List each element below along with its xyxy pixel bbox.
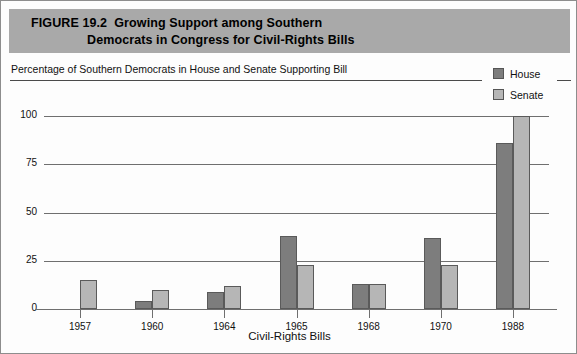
legend-label-house: House	[510, 68, 540, 80]
x-tick-1960	[152, 309, 153, 318]
bar-group-1960	[135, 116, 169, 309]
chart-legend: House Senate	[493, 65, 543, 107]
legend-swatch-senate	[493, 89, 504, 100]
bar-senate-1960	[152, 290, 169, 309]
x-tick-1965	[297, 309, 298, 318]
bar-senate-1970	[441, 265, 458, 309]
bar-groups	[44, 116, 549, 309]
legend-item-senate: Senate	[493, 86, 543, 103]
bar-group-1957	[63, 116, 97, 309]
bar-senate-1964	[224, 286, 241, 309]
x-tick-1970	[441, 309, 442, 318]
y-tick-label-75: 75	[26, 157, 37, 168]
x-tick-1968	[369, 309, 370, 318]
figure-header-band: FIGURE 19.2 Growing Support among Southe…	[9, 9, 570, 53]
figure-title: FIGURE 19.2 Growing Support among Southe…	[31, 15, 551, 48]
bar-house-1960	[135, 301, 152, 309]
legend-swatch-house	[493, 68, 504, 79]
x-tick-1957	[80, 309, 81, 318]
bar-group-1964	[207, 116, 241, 309]
bar-senate-1968	[369, 284, 386, 309]
figure-container: FIGURE 19.2 Growing Support among Southe…	[0, 0, 577, 354]
bar-senate-1965	[297, 265, 314, 309]
subtitle-rule-right	[557, 80, 571, 81]
figure-title-line1: Growing Support among Southern	[114, 16, 322, 30]
legend-label-senate: Senate	[510, 89, 543, 101]
bar-house-1965	[280, 236, 297, 309]
y-tick-label-0: 0	[31, 302, 37, 313]
bar-group-1968	[352, 116, 386, 309]
figure-number: FIGURE 19.2	[31, 16, 107, 30]
subtitle-rule-left	[10, 80, 482, 81]
x-axis-label: Civil-Rights Bills	[1, 330, 577, 342]
y-tick-label-100: 100	[20, 109, 37, 120]
x-tick-1964	[224, 309, 225, 318]
bar-house-1964	[207, 292, 224, 309]
bar-senate-1988	[513, 116, 530, 309]
bar-group-1965	[280, 116, 314, 309]
y-tick-label-25: 25	[26, 254, 37, 265]
bar-senate-1957	[80, 280, 97, 309]
bar-group-1970	[424, 116, 458, 309]
bar-house-1968	[352, 284, 369, 309]
bar-house-1988	[496, 143, 513, 309]
y-tick-label-50: 50	[26, 206, 37, 217]
legend-item-house: House	[493, 65, 543, 82]
plot-area: 1007550250 1957196019641965196819701988	[44, 116, 549, 309]
bar-group-1988	[496, 116, 530, 309]
figure-title-line2: Democrats in Congress for Civil-Rights B…	[87, 32, 551, 49]
chart-subtitle: Percentage of Southern Democrats in Hous…	[11, 63, 347, 75]
bar-house-1970	[424, 238, 441, 309]
x-tick-1988	[513, 309, 514, 318]
